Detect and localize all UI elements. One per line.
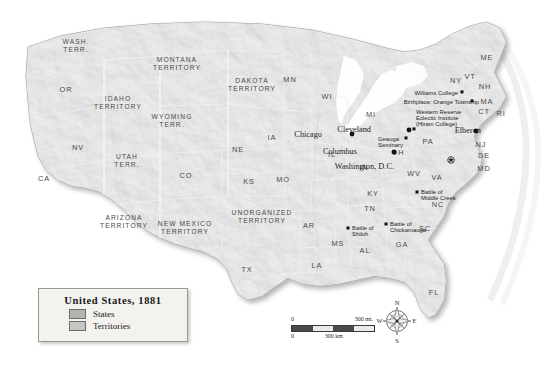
state-label-de: DE: [478, 151, 490, 160]
historical-map: ORCANVMNWIMIIANECOKSMOILINOHPAKYTNARMSAL…: [0, 0, 556, 371]
territory-label-unorganized-territory: UNORGANIZEDTERRITORY: [232, 209, 293, 224]
state-label-ny: NY: [450, 76, 462, 85]
state-label-tn: TN: [364, 204, 376, 213]
battle-marker-battle-of-chickamauga: [385, 223, 388, 226]
compass-west: W: [376, 317, 383, 324]
state-label-ca: CA: [38, 174, 50, 183]
legend-label-states: States: [93, 309, 115, 319]
territory-label-utah-terr: UTAHTERR.: [114, 153, 139, 168]
city-marker-columbus: [392, 150, 397, 155]
state-label-fl: FL: [429, 288, 439, 297]
state-label-ne: NE: [232, 145, 244, 154]
scale-bar-graphic: [291, 325, 375, 332]
territory-label-arizona-territory: ARIZONATERRITORY: [100, 214, 148, 229]
state-label-ks: KS: [243, 177, 255, 186]
legend-swatch-states: [69, 309, 86, 319]
state-label-ky: KY: [367, 189, 379, 198]
scale-miles-zero: 0: [291, 316, 294, 322]
territory-label-montana-territory: MONTANATERRITORY: [153, 56, 201, 71]
state-label-mn: MN: [283, 75, 296, 84]
state-label-va: VA: [431, 173, 442, 182]
legend-item-states: States: [69, 309, 187, 319]
state-label-ia: IA: [268, 133, 277, 142]
city-label-chicago: Chicago: [294, 130, 322, 139]
state-label-nj: NJ: [476, 140, 487, 149]
city-label-cleveland: Cleveland: [337, 125, 371, 134]
scale-km-zero: 0: [291, 333, 294, 339]
state-label-mi: MI: [366, 110, 376, 119]
city-label-washington-d-c: Washington, D.C.: [335, 162, 394, 171]
battle-marker-battle-of-middle-creek: [416, 191, 419, 194]
state-label-md: MD: [477, 164, 490, 173]
scale-km-row: 0 300 km: [291, 333, 373, 341]
state-label-or: OR: [60, 85, 73, 94]
state-label-al: AL: [360, 246, 371, 255]
state-label-nc: NC: [432, 200, 444, 209]
annotation-label-western-reserve-eclectic-institute-hiram-college: Western ReserveEclectic Institute(Hiram …: [416, 109, 462, 127]
scale-miles-row: 0 300 mi.: [291, 316, 373, 324]
annotation-label-williams-college: Williams College: [414, 90, 458, 96]
scale-miles-value: 300 mi.: [355, 316, 373, 322]
compass-south: S: [395, 337, 399, 344]
compass-north: N: [395, 299, 400, 306]
state-label-co: CO: [180, 171, 193, 180]
territory-label-wash-terr: WASH.TERR.: [63, 38, 90, 53]
state-label-ar: AR: [303, 221, 315, 230]
legend-item-territories: Territories: [69, 321, 187, 331]
annotation-marker-geauga-seminary: [405, 136, 408, 139]
state-label-ga: GA: [396, 240, 408, 249]
compass-east: E: [413, 317, 417, 324]
battle-marker-battle-of-shiloh: [347, 227, 350, 230]
map-legend: United States, 1881 States Territories: [38, 288, 188, 342]
state-label-nh: NH: [479, 82, 491, 91]
state-label-vt: VT: [464, 72, 475, 81]
annotation-marker-williams-college: [461, 90, 464, 93]
city-label-columbus: Columbus: [323, 147, 357, 156]
state-label-ma: MA: [481, 97, 494, 106]
compass-rose: N S E W: [374, 289, 420, 349]
state-label-pa: PA: [422, 137, 433, 146]
state-label-ms: MS: [332, 239, 345, 248]
state-label-ct: CT: [478, 107, 490, 116]
state-label-mo: MO: [276, 175, 290, 184]
state-label-wi: WI: [322, 92, 333, 101]
state-label-wv: WV: [407, 169, 421, 178]
state-label-me: ME: [481, 53, 494, 62]
state-label-la: LA: [312, 261, 323, 270]
legend-label-territories: Territories: [93, 321, 130, 331]
annotation-label-birthplace-orange-township: Birthplace: Orange Township: [404, 99, 480, 105]
annotation-marker-western-reserve-eclectic-institute-hiram-college: [413, 127, 416, 130]
territory-label-new-mexico-territory: NEW MEXICOTERRITORY: [158, 220, 212, 235]
state-label-tx: TX: [241, 265, 252, 274]
state-label-nv: NV: [72, 143, 84, 152]
city-marker-cleveland: [407, 128, 412, 133]
scale-km-value: 300 km: [325, 333, 343, 339]
legend-swatch-territories: [69, 321, 86, 331]
state-label-ri: RI: [496, 109, 505, 118]
scale-bar: 0 300 mi. 0 300 km: [291, 316, 373, 341]
legend-title: United States, 1881: [39, 295, 187, 306]
city-label-elberon: Elberon: [455, 126, 482, 135]
